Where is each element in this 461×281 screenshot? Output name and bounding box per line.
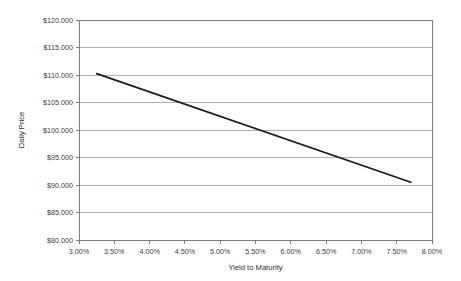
- x-tick-label: 4.00%: [139, 247, 160, 256]
- chart-canvas: $120.000$115.000$110.000$105.000$100.000…: [0, 0, 461, 281]
- y-tick-label: $105.000: [43, 98, 73, 107]
- x-tick-label: 6.50%: [316, 247, 337, 256]
- x-tick-label: 4.50%: [175, 247, 196, 256]
- y-tick-label: $85.000: [47, 208, 73, 217]
- x-tick-label: 3.50%: [104, 247, 125, 256]
- x-tick-label: 3.00%: [69, 247, 90, 256]
- x-tick-label: 8.00%: [422, 247, 443, 256]
- y-tick-label: $80.000: [47, 236, 73, 245]
- y-tick-label: $110.000: [44, 71, 73, 80]
- y-tick-label: $120.000: [43, 16, 73, 25]
- y-tick-label: $90.000: [47, 181, 73, 190]
- y-tick-label: $95.000: [47, 153, 73, 162]
- x-axis-title: Yield to Maturity: [228, 263, 282, 272]
- x-tick-label: 5.00%: [210, 247, 231, 256]
- x-tick-label: 5.50%: [245, 247, 266, 256]
- x-tick-label: 7.00%: [351, 247, 372, 256]
- y-axis-title: Daily Price: [17, 112, 26, 148]
- x-tick-label: 6.00%: [281, 247, 302, 256]
- x-tick-label: 7.50%: [387, 247, 408, 256]
- bond-price-yield-chart: $120.000$115.000$110.000$105.000$100.000…: [0, 0, 461, 281]
- y-tick-label: $115.000: [44, 43, 73, 52]
- y-axis-tick-labels: $120.000$115.000$110.000$105.000$100.000…: [43, 16, 73, 245]
- y-tick-label: $100.000: [43, 126, 73, 135]
